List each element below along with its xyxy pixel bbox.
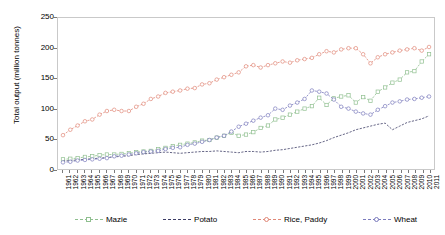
x-tick-mark <box>202 170 203 173</box>
legend-item-wheat[interactable]: Wheat <box>363 215 417 224</box>
x-tick-label: 1998 <box>337 175 344 189</box>
data-point <box>112 155 116 159</box>
data-point <box>266 63 270 67</box>
y-axis-label: Total output (million tonnes) <box>10 0 24 160</box>
x-tick-label: 1977 <box>183 175 190 189</box>
legend-item-mazie[interactable]: Mazie <box>75 215 127 224</box>
data-point <box>281 60 285 64</box>
x-tick-mark <box>305 170 306 173</box>
data-point <box>361 52 365 56</box>
data-point <box>427 95 431 99</box>
data-point <box>405 48 409 52</box>
data-point <box>252 130 255 133</box>
data-point <box>310 56 314 60</box>
data-point <box>303 97 307 101</box>
data-point <box>178 145 182 149</box>
x-tick-label: 1971 <box>139 175 146 189</box>
data-point <box>259 126 262 129</box>
x-tick-label: 1968 <box>117 175 124 189</box>
data-point <box>186 143 190 147</box>
data-point <box>420 96 424 100</box>
x-tick-mark <box>364 170 365 173</box>
x-tick-label: 2001 <box>359 175 366 189</box>
data-point <box>266 113 270 117</box>
x-tick-mark <box>194 170 195 173</box>
data-point <box>413 69 416 72</box>
x-tick-label: 1973 <box>153 175 160 189</box>
x-tick-label: 2007 <box>404 175 411 189</box>
data-point <box>354 101 357 104</box>
x-tick-label: 1974 <box>161 175 168 189</box>
data-point <box>90 158 94 162</box>
data-point <box>127 153 131 157</box>
data-point <box>369 99 372 102</box>
x-tick-label: 1989 <box>271 175 278 189</box>
data-point <box>281 116 284 119</box>
data-point <box>105 156 109 160</box>
x-tick-mark <box>298 170 299 173</box>
data-point <box>98 113 102 117</box>
data-point <box>369 62 373 66</box>
x-tick-mark <box>121 170 122 173</box>
x-tick-mark <box>415 170 416 173</box>
data-point <box>420 60 423 63</box>
x-tick-mark <box>158 170 159 173</box>
data-point <box>215 78 219 82</box>
data-point <box>120 154 124 158</box>
x-tick-label: 1978 <box>190 175 197 189</box>
data-point <box>332 98 336 102</box>
data-point <box>237 125 241 129</box>
data-point <box>361 95 364 98</box>
data-point <box>178 89 182 93</box>
x-tick-mark <box>312 170 313 173</box>
x-tick-label: 1980 <box>205 175 212 189</box>
x-tick-mark <box>180 170 181 173</box>
x-tick-mark <box>136 170 137 173</box>
data-point <box>244 122 248 126</box>
x-tick-label: 1997 <box>330 175 337 189</box>
x-tick-label: 2010 <box>426 175 433 189</box>
legend-label: Wheat <box>394 215 417 224</box>
data-point <box>164 147 168 151</box>
data-point <box>391 81 394 84</box>
data-point <box>127 109 131 113</box>
x-tick-mark <box>290 170 291 173</box>
x-tick-mark <box>209 170 210 173</box>
data-point <box>318 96 321 99</box>
data-point <box>427 53 430 56</box>
data-point <box>259 66 263 70</box>
data-point <box>266 124 269 127</box>
data-point <box>215 136 219 140</box>
data-point <box>398 78 401 81</box>
data-point <box>186 87 190 91</box>
x-tick-mark <box>128 170 129 173</box>
data-point <box>61 133 65 137</box>
data-point <box>69 128 73 132</box>
x-tick-mark <box>84 170 85 173</box>
legend-item-rice-paddy[interactable]: Rice, Paddy <box>253 215 327 224</box>
series-line <box>63 54 429 159</box>
y-tick-label: 200 <box>28 44 54 52</box>
x-tick-label: 1984 <box>234 175 241 189</box>
data-point <box>237 71 241 75</box>
x-tick-label: 1965 <box>94 175 101 189</box>
x-tick-mark <box>334 170 335 173</box>
x-tick-mark <box>261 170 262 173</box>
y-tick-label: 250 <box>28 13 54 21</box>
data-point <box>339 105 343 109</box>
y-axis-tick-labels: 250200150100500 <box>26 0 54 235</box>
legend-item-potato[interactable]: Potato <box>163 215 217 224</box>
x-tick-label: 1962 <box>72 175 79 189</box>
x-tick-label: 1976 <box>175 175 182 189</box>
data-point <box>156 149 160 153</box>
legend-label: Potato <box>194 215 217 224</box>
data-point <box>69 160 73 164</box>
data-point <box>61 161 65 165</box>
x-tick-label: 1979 <box>197 175 204 189</box>
x-tick-mark <box>283 170 284 173</box>
data-point <box>391 101 395 105</box>
x-tick-mark <box>99 170 100 173</box>
x-tick-mark <box>91 170 92 173</box>
data-point <box>413 97 417 101</box>
x-tick-label: 2002 <box>367 175 374 189</box>
